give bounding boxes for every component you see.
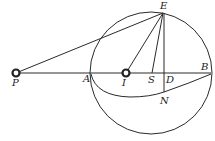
- label-s: S: [148, 74, 155, 85]
- label-b: B: [200, 61, 208, 72]
- point-i-marker: [123, 70, 130, 77]
- label-a: A: [82, 73, 90, 84]
- geometry-diagram: P A I S D B E N: [0, 0, 215, 141]
- label-d: D: [165, 74, 174, 85]
- label-i: I: [121, 77, 127, 88]
- point-p-marker: [13, 70, 20, 77]
- label-n: N: [159, 95, 170, 106]
- line-pe: [16, 13, 163, 73]
- label-p: P: [11, 77, 19, 88]
- label-e: E: [159, 0, 168, 11]
